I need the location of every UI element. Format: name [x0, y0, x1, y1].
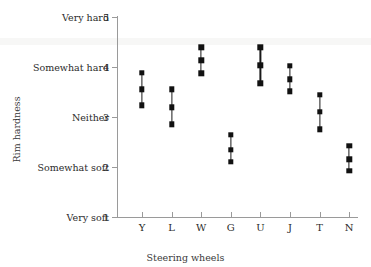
- y-tick-value-4: 4: [101, 61, 111, 72]
- y-axis-line: [117, 16, 118, 217]
- marker-W-upper: [198, 45, 203, 50]
- x-tick-U: [260, 212, 261, 217]
- x-tick-label-N: N: [338, 222, 360, 233]
- y-tick-1: [112, 217, 117, 218]
- x-tick-label-W: W: [190, 222, 212, 233]
- marker-J-upper: [287, 63, 292, 68]
- x-tick-N: [349, 212, 350, 217]
- y-tick-value-2: 2: [101, 161, 111, 172]
- x-tick-T: [320, 212, 321, 217]
- x-tick-J: [290, 212, 291, 217]
- marker-T-mean: [317, 109, 322, 114]
- marker-W-lower: [198, 71, 203, 76]
- marker-U-lower: [258, 81, 263, 86]
- marker-N-lower: [346, 168, 351, 173]
- x-tick-W: [201, 212, 202, 217]
- x-tick-label-J: J: [279, 222, 301, 233]
- marker-G-mean: [228, 147, 233, 152]
- x-tick-label-U: U: [249, 222, 271, 233]
- x-tick-G: [231, 212, 232, 217]
- marker-L-lower: [169, 122, 174, 127]
- y-tick-3: [112, 117, 117, 118]
- background-band: [0, 38, 371, 45]
- y-axis-title: Rim hardness: [11, 69, 22, 189]
- marker-U-upper: [258, 45, 263, 50]
- marker-T-upper: [317, 92, 322, 97]
- x-tick-label-Y: Y: [131, 222, 153, 233]
- marker-W-mean: [198, 58, 203, 63]
- y-tick-2: [112, 167, 117, 168]
- x-tick-label-L: L: [161, 222, 183, 233]
- marker-N-mean: [346, 157, 351, 162]
- marker-G-lower: [228, 159, 233, 164]
- x-tick-label-T: T: [309, 222, 331, 233]
- x-axis-line: [117, 217, 358, 218]
- y-tick-5: [112, 17, 117, 18]
- x-axis-title: Steering wheels: [0, 252, 371, 263]
- y-tick-4: [112, 67, 117, 68]
- x-tick-Y: [142, 212, 143, 217]
- marker-L-mean: [169, 105, 174, 110]
- chart-container: Rim hardness Steering wheels Very soft1S…: [0, 0, 371, 267]
- marker-Y-upper: [139, 70, 144, 75]
- marker-G-upper: [228, 132, 233, 137]
- marker-T-lower: [317, 127, 322, 132]
- marker-N-upper: [346, 143, 351, 148]
- y-tick-label-4: Somewhat hard: [33, 61, 109, 72]
- x-tick-L: [172, 212, 173, 217]
- y-tick-value-3: 3: [101, 111, 111, 122]
- marker-Y-lower: [139, 103, 144, 108]
- y-tick-value-5: 5: [101, 11, 111, 22]
- marker-J-mean: [287, 77, 292, 82]
- marker-U-mean: [258, 63, 263, 68]
- marker-Y-mean: [139, 87, 144, 92]
- y-tick-label-2: Somewhat soft: [37, 161, 109, 172]
- y-tick-value-1: 1: [101, 212, 111, 223]
- marker-J-lower: [287, 89, 292, 94]
- x-tick-label-G: G: [220, 222, 242, 233]
- marker-L-upper: [169, 87, 174, 92]
